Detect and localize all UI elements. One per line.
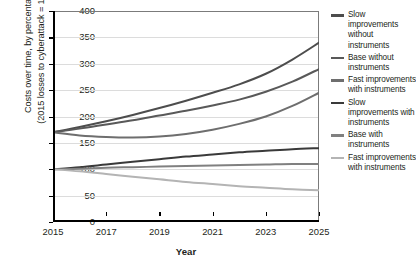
y-axis-title-line1: Costs over time, by percentage (22, 0, 35, 146)
series-line (53, 169, 319, 190)
legend-color-swatch (331, 57, 344, 60)
legend: Slow improvements without instrumentsBas… (331, 10, 416, 175)
legend-item-label: Base without instruments (348, 53, 416, 73)
legend-item-label: Base with instruments (348, 130, 416, 150)
x-tick-label: 2025 (302, 226, 336, 237)
x-axis-title: Year (53, 246, 319, 257)
series-lines (53, 11, 319, 222)
legend-color-swatch (331, 102, 344, 105)
y-axis-title: Costs over time, by percentage (2015 los… (22, 0, 48, 146)
y-axis-line (53, 11, 55, 222)
legend-item[interactable]: Base with instruments (331, 130, 416, 150)
y-axis-title-line2: (2015 losses to cyberattack = 100%) (35, 0, 48, 146)
x-tick-label: 2023 (249, 226, 283, 237)
x-tick-mark (319, 212, 320, 216)
series-line (53, 93, 319, 138)
legend-item[interactable]: Fast improvements with instruments (331, 153, 416, 173)
x-tick-label: 2021 (196, 226, 230, 237)
x-tick-label: 2017 (89, 226, 123, 237)
legend-item[interactable]: Fast improvements with instruments (331, 75, 416, 95)
x-tick-label: 2019 (142, 226, 176, 237)
y-tick-mark (49, 222, 53, 223)
legend-color-swatch (331, 14, 344, 17)
chart-container: Costs over time, by percentage (2015 los… (0, 0, 416, 265)
legend-item[interactable]: Slow improvements without instruments (331, 10, 416, 51)
legend-item[interactable]: Base without instruments (331, 53, 416, 73)
legend-color-swatch (331, 157, 344, 160)
x-axis-line (53, 220, 319, 222)
legend-color-swatch (331, 79, 344, 82)
x-tick-label: 2015 (36, 226, 70, 237)
plot-area (53, 11, 319, 222)
legend-color-swatch (331, 134, 344, 137)
legend-item-label: Slow improvements without instruments (348, 10, 416, 51)
legend-item-label: Fast improvements with instruments (348, 75, 416, 95)
legend-item-label: Fast improvements with instruments (348, 153, 416, 173)
legend-item[interactable]: Slow improvements with instruments (331, 98, 416, 129)
legend-item-label: Slow improvements with instruments (348, 98, 416, 129)
